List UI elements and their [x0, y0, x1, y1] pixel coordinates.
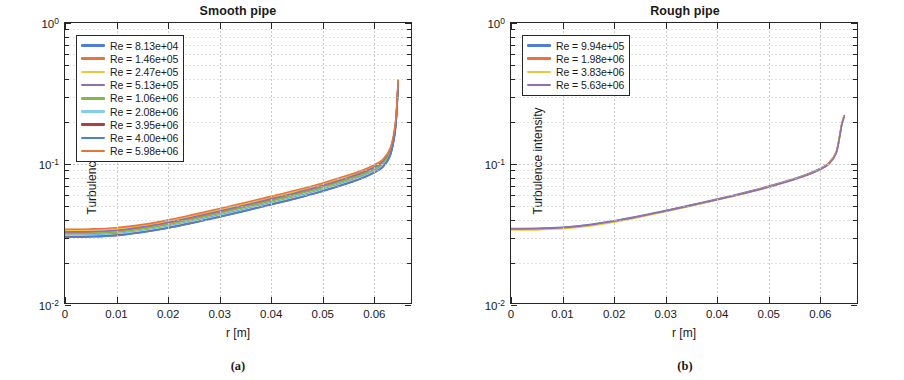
yaxis-tick-minor — [511, 45, 515, 46]
xaxis-tick-top — [820, 23, 821, 29]
legend-color-swatch — [527, 71, 551, 74]
yaxis-tick-minor — [65, 122, 69, 123]
panel-b-legend: Re = 9.94e+05Re = 1.98e+06Re = 3.83e+06R… — [522, 35, 630, 96]
gridline-horizontal — [65, 164, 411, 165]
xaxis-tick-top — [220, 23, 221, 29]
legend-item: Re = 9.94e+05 — [527, 39, 624, 52]
xaxis-tick-label: 0.05 — [300, 308, 346, 320]
yaxis-tick-minor — [853, 238, 857, 239]
yaxis-tick-minor — [407, 29, 411, 30]
xaxis-tick — [614, 297, 615, 303]
legend-label: Re = 1.98e+06 — [556, 53, 624, 65]
yaxis-tick — [511, 164, 517, 165]
legend-color-swatch — [81, 97, 105, 100]
panel-a-legend: Re = 8.13e+04Re = 1.46e+05Re = 2.47e+05R… — [76, 35, 184, 162]
legend-item: Re = 8.13e+04 — [81, 39, 178, 52]
yaxis-tick-minor — [853, 122, 857, 123]
legend-color-swatch — [81, 123, 105, 126]
yaxis-tick-minor — [65, 79, 69, 80]
xaxis-tick-top — [563, 23, 564, 29]
yaxis-tick-minor — [853, 195, 857, 196]
yaxis-tick-minor — [511, 186, 515, 187]
yaxis-tick-label: 10-1 — [485, 157, 505, 172]
legend-color-swatch — [81, 57, 105, 60]
yaxis-tick-minor — [407, 263, 411, 264]
legend-color-swatch — [81, 71, 105, 74]
legend-item: Re = 1.06e+06 — [81, 92, 178, 105]
yaxis-tick-minor — [511, 170, 515, 171]
xaxis-tick — [65, 297, 66, 303]
figure-turbulence-intensity: Smooth pipe Re = 8.13e+04Re = 1.46e+05Re… — [0, 0, 904, 380]
gridline-horizontal — [511, 164, 857, 165]
yaxis-tick-minor — [511, 195, 515, 196]
yaxis-tick-minor — [511, 97, 515, 98]
legend-color-swatch — [81, 44, 105, 47]
gridline-horizontal-minor — [65, 220, 411, 221]
xaxis-tick-top — [117, 23, 118, 29]
yaxis-tick-minor — [65, 178, 69, 179]
yaxis-tick-minor — [407, 65, 411, 66]
legend-label: Re = 1.46e+05 — [110, 53, 178, 65]
xaxis-tick-label: 0.01 — [540, 308, 586, 320]
yaxis-tick-minor — [65, 195, 69, 196]
yaxis-tick-minor — [407, 54, 411, 55]
legend-label: Re = 2.08e+06 — [110, 106, 178, 118]
xaxis-tick — [220, 297, 221, 303]
yaxis-tick-label: 10-2 — [485, 298, 505, 313]
xaxis-tick-top — [614, 23, 615, 29]
yaxis-tick-minor — [65, 238, 69, 239]
yaxis-tick-minor — [853, 170, 857, 171]
legend-label: Re = 5.63e+06 — [556, 79, 624, 91]
xaxis-tick — [168, 297, 169, 303]
curve-series — [511, 117, 844, 229]
gridline-horizontal-minor — [65, 186, 411, 187]
yaxis-tick-minor — [65, 45, 69, 46]
yaxis-tick-minor — [853, 178, 857, 179]
gridline-horizontal-minor — [65, 170, 411, 171]
yaxis-tick-minor — [65, 65, 69, 66]
legend-label: Re = 9.94e+05 — [556, 40, 624, 52]
yaxis-tick-minor — [853, 263, 857, 264]
yaxis-tick-minor — [853, 206, 857, 207]
legend-item: Re = 5.63e+06 — [527, 79, 624, 92]
gridline-horizontal-minor — [65, 195, 411, 196]
legend-label: Re = 2.47e+05 — [110, 66, 178, 78]
curve-series — [511, 117, 844, 230]
xaxis-tick-top — [323, 23, 324, 29]
xaxis-tick — [717, 297, 718, 303]
panel-b-sublabel: (b) — [452, 359, 904, 374]
legend-item: Re = 2.47e+05 — [81, 65, 178, 78]
yaxis-tick — [405, 23, 411, 24]
legend-label: Re = 1.06e+06 — [110, 92, 178, 104]
yaxis-tick-minor — [511, 54, 515, 55]
yaxis-tick-minor — [407, 186, 411, 187]
panel-rough-pipe: Rough pipe Re = 9.94e+05Re = 1.98e+06Re … — [452, 0, 904, 380]
legend-label: Re = 8.13e+04 — [110, 40, 178, 52]
xaxis-tick — [769, 297, 770, 303]
xaxis-tick-top — [666, 23, 667, 29]
yaxis-tick-minor — [65, 206, 69, 207]
yaxis-tick-minor — [407, 195, 411, 196]
panel-b-title: Rough pipe — [452, 4, 904, 18]
gridline-horizontal-minor — [511, 97, 857, 98]
yaxis-tick-minor — [511, 79, 515, 80]
xaxis-tick — [271, 297, 272, 303]
gridline-horizontal-minor — [65, 29, 411, 30]
yaxis-tick-minor — [511, 65, 515, 66]
yaxis-tick-label: 100 — [487, 16, 505, 31]
yaxis-tick-minor — [407, 238, 411, 239]
yaxis-tick-minor — [511, 37, 515, 38]
xaxis-tick-top — [769, 23, 770, 29]
yaxis-tick-minor — [65, 170, 69, 171]
xaxis-tick-top — [717, 23, 718, 29]
legend-item: Re = 4.00e+06 — [81, 131, 178, 144]
yaxis-tick-minor — [407, 170, 411, 171]
xaxis-tick-label: 0.06 — [797, 308, 843, 320]
yaxis-tick — [65, 305, 71, 306]
gridline-horizontal-minor — [511, 122, 857, 123]
yaxis-tick-minor — [407, 178, 411, 179]
yaxis-tick-minor — [853, 220, 857, 221]
gridline-horizontal-minor — [511, 220, 857, 221]
yaxis-tick-minor — [853, 65, 857, 66]
yaxis-tick-minor — [853, 29, 857, 30]
